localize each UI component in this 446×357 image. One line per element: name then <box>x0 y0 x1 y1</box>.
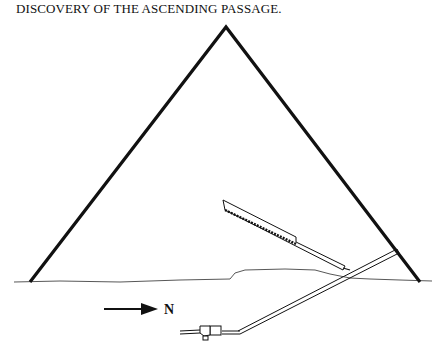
north-arrow: N <box>104 302 174 317</box>
north-label: N <box>164 302 174 317</box>
ground-line <box>14 269 432 282</box>
descending-passage <box>238 249 399 334</box>
pyramid-diagram: N <box>0 0 446 357</box>
grand-gallery <box>223 200 345 270</box>
pyramid-outline <box>30 27 420 282</box>
subterranean-chamber <box>180 326 240 340</box>
